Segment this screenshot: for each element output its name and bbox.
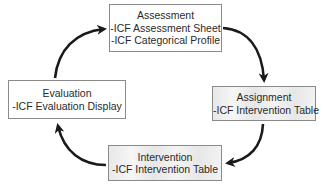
node-item: -ICF Intervention Table — [213, 104, 315, 117]
node-title: Evaluation — [9, 87, 125, 100]
arrow-intervention-to-evaluation — [58, 126, 106, 165]
node-item: -ICF Assessment Sheet — [110, 22, 221, 35]
arrow-assessment-to-assignment — [223, 28, 264, 80]
node-title: Intervention — [109, 151, 221, 164]
arrow-evaluation-to-assessment — [55, 29, 104, 78]
node-intervention: Intervention -ICF Intervention Table — [108, 145, 222, 181]
node-item: -ICF Evaluation Display — [9, 100, 125, 113]
node-assignment: Assignment -ICF Intervention Table — [212, 86, 316, 121]
node-title: Assignment — [213, 91, 315, 104]
node-item: -ICF Categorical Profile — [110, 34, 221, 47]
node-title: Assessment — [110, 9, 221, 22]
arrow-assignment-to-intervention — [228, 124, 263, 163]
node-evaluation: Evaluation -ICF Evaluation Display — [8, 80, 126, 119]
node-assessment: Assessment -ICF Assessment Sheet -ICF Ca… — [109, 4, 222, 52]
node-item: -ICF Intervention Table — [109, 163, 221, 176]
